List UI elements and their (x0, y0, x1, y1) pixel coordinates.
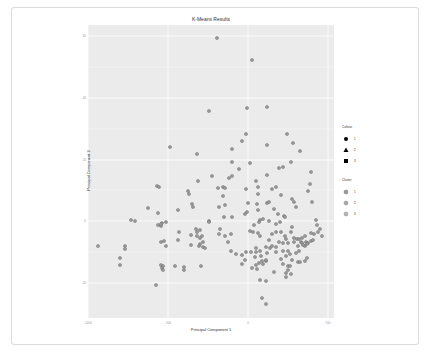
x-tick-label: -1000 (78, 321, 98, 325)
legend-entry: 1 (342, 186, 356, 197)
y-tick-label: -20 (74, 281, 86, 285)
y-tick-label: 20 (74, 158, 86, 162)
legend-entry: 1 (342, 133, 356, 144)
legend-entry: 2 (342, 144, 356, 155)
x-tick-label: 0 (238, 321, 258, 325)
legend-label: 3 (354, 212, 356, 216)
x-axis-label: Principal Component 1 (88, 327, 334, 332)
legend-label: 2 (354, 201, 356, 205)
gridlines (88, 25, 334, 318)
circle-marker-icon (342, 199, 350, 207)
y-tick-label: 0 (74, 219, 86, 223)
legend-label: 1 (354, 190, 356, 194)
circle-marker-icon (342, 135, 350, 143)
y-axis-label: Principal Component 2 (86, 141, 91, 201)
legend-title: Cluster (342, 178, 356, 182)
legend-cultivar: Cultivar 1 2 3 (342, 125, 356, 166)
y-tick-label: 40 (74, 96, 86, 100)
data-points (96, 36, 323, 305)
triangle-marker-icon (342, 146, 350, 154)
legend-cluster: Cluster 1 2 3 (342, 178, 356, 219)
legend-label: 1 (354, 137, 356, 141)
circle-marker-icon (342, 188, 350, 196)
scatter-plot (0, 0, 428, 353)
legend: Cultivar 1 2 3 Cluster 1 2 3 (342, 125, 356, 231)
square-marker-icon (342, 157, 350, 165)
x-tick-label: -500 (158, 321, 178, 325)
legend-entry: 3 (342, 208, 356, 219)
legend-entry: 2 (342, 197, 356, 208)
y-tick-label: 60 (74, 34, 86, 38)
legend-title: Cultivar (342, 125, 356, 129)
legend-label: 3 (354, 159, 356, 163)
legend-entry: 3 (342, 155, 356, 166)
legend-label: 2 (354, 148, 356, 152)
circle-marker-icon (342, 210, 350, 218)
x-tick-label: 500 (318, 321, 338, 325)
